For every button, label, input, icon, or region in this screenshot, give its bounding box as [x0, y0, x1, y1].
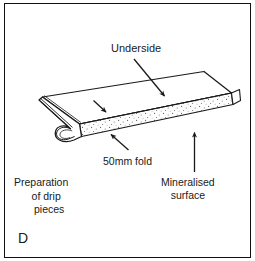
fold-leader — [111, 135, 129, 151]
label-mineralised-surface: Mineralisedsurface — [161, 176, 215, 202]
caption-line-1: Preparation — [14, 176, 68, 190]
panel-letter: D — [18, 230, 28, 246]
caption-line-3: pieces — [14, 203, 68, 217]
caption-line-2: of drip — [14, 190, 68, 204]
label-mineralised-line-1: Mineralised — [161, 176, 215, 189]
slab-end-face — [232, 90, 241, 105]
label-underside: Underside — [111, 42, 161, 55]
label-mineralised-line-2: surface — [161, 189, 215, 202]
label-fold-dimension: 50mm fold — [103, 155, 152, 167]
figure-panel-d: Underside 50mm fold Mineralisedsurface P… — [0, 0, 255, 261]
slab-body — [39, 72, 241, 142]
drip-piece-drawing — [0, 0, 255, 261]
figure-caption: Preparationof drippieces — [14, 176, 68, 217]
